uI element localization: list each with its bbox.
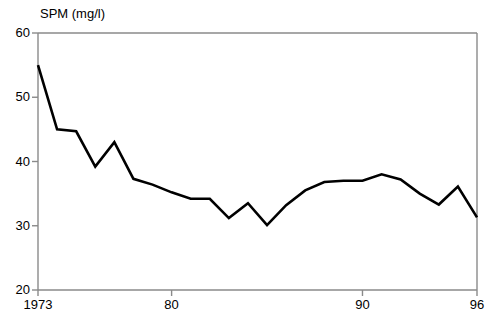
- y-tick-label: 50: [2, 89, 30, 104]
- x-tick-label: 90: [355, 297, 369, 312]
- data-series-line: [38, 65, 477, 225]
- chart-plot-area: [0, 0, 492, 316]
- axis-lines: [38, 33, 477, 290]
- y-tick-label: 40: [2, 154, 30, 169]
- y-tick-label: 60: [2, 25, 30, 40]
- y-tick-label: 20: [2, 282, 30, 297]
- x-tick-label: 80: [164, 297, 178, 312]
- x-tick-marks: [38, 290, 477, 296]
- y-tick-label: 30: [2, 218, 30, 233]
- x-tick-label: 1973: [24, 297, 53, 312]
- x-tick-label: 96: [470, 297, 484, 312]
- y-tick-marks: [32, 33, 38, 290]
- chart-container: SPM (mg/l) 2030405060 1973809096: [0, 0, 492, 316]
